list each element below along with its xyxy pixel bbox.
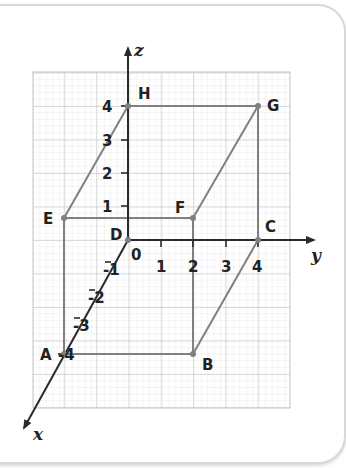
vertex-label-A: A xyxy=(40,346,52,364)
x-tick-2: -2 xyxy=(88,289,105,307)
y-tick-0: 0 xyxy=(131,246,141,264)
vertex-label-D: D xyxy=(110,226,122,244)
vertex-label-B: B xyxy=(202,356,213,374)
z-tick-4: 4 xyxy=(102,98,112,116)
x-tick-3: -3 xyxy=(73,317,90,335)
x-tick-4: -4 xyxy=(58,346,75,364)
vertex-label-G: G xyxy=(267,97,279,115)
z-axis-label: z xyxy=(133,40,144,60)
y-tick-3: 3 xyxy=(221,258,231,276)
x-axis-label: x xyxy=(32,424,44,444)
y-axis-label: y xyxy=(310,245,322,265)
y-tick-2: 2 xyxy=(188,258,198,276)
vertex-label-C: C xyxy=(265,218,276,236)
vertex-label-H: H xyxy=(138,85,151,103)
vertex-label-F: F xyxy=(175,199,185,217)
z-tick-3: 3 xyxy=(102,132,112,150)
z-tick-2: 2 xyxy=(102,165,112,183)
z-tick-1: 1 xyxy=(102,198,112,216)
y-tick-1: 1 xyxy=(156,258,166,276)
y-tick-4: 4 xyxy=(252,258,262,276)
coordinate-diagram: z y x 4 3 2 1 0 1 2 3 4 -1 -2 -3 -4 H G … xyxy=(0,0,346,468)
vertex-label-E: E xyxy=(43,210,53,228)
x-tick-1: -1 xyxy=(103,261,120,279)
